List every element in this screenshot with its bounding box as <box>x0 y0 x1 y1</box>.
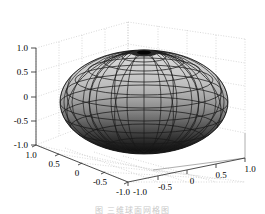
z-tick-label: -1.0 <box>14 140 29 150</box>
z-tick-label: 1.0 <box>17 43 29 53</box>
y-tick-label: 1.0 <box>244 164 256 174</box>
x-tick-label: -0.5 <box>93 177 108 187</box>
x-tick-label: 0 <box>75 168 80 178</box>
y-tick-label: 0 <box>190 176 195 186</box>
z-tick-label: 0 <box>24 92 29 102</box>
z-tick-label: 0.5 <box>17 67 29 77</box>
y-tick-label: 0.5 <box>215 170 227 180</box>
y-tick-label: -0.5 <box>158 182 173 192</box>
y-axis-tick-labels: -1.0 -0.5 0 0.5 1.0 <box>133 164 256 197</box>
x-tick-label: -1.0 <box>116 187 131 197</box>
x-axis-tick-labels: 1.0 0.5 0 -0.5 -1.0 <box>25 150 130 197</box>
x-tick-label: 1.0 <box>25 150 37 160</box>
plot-canvas: 1.0 0.5 0 -0.5 -1.0 1.0 0.5 0 -0.5 -1.0 … <box>0 0 265 214</box>
x-tick-label: 0.5 <box>48 159 60 169</box>
z-tick-label: -0.5 <box>14 116 29 126</box>
sphere-surface <box>57 35 231 169</box>
figure-caption: 图 三维球面网格图 <box>0 205 265 214</box>
z-axis-tick-labels: 1.0 0.5 0 -0.5 -1.0 <box>14 43 29 150</box>
figure-panel: 1.0 0.5 0 -0.5 -1.0 1.0 0.5 0 -0.5 -1.0 … <box>0 0 265 214</box>
sphere-pole <box>131 49 157 56</box>
y-tick-label: -1.0 <box>133 187 148 197</box>
